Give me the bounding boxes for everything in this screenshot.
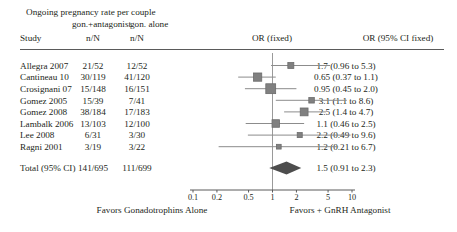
row-treatment-nn: 3/19 [85,142,102,152]
column-header-treatment-nn: n/N [86,33,100,43]
column-header-plot: OR (fixed) [252,33,292,43]
row-study-label: Crosignani 07 [20,84,72,94]
forest-plot: Ongoing pregnancy rate per couplegon.+an… [0,0,457,232]
chart-title: Ongoing pregnancy rate per couple [26,7,156,17]
total-effect-text: 1.5 (0.91 to 2.3) [316,163,375,173]
row-treatment-nn: 38/184 [80,107,106,117]
effect-marker [254,73,262,81]
effect-marker [288,63,294,69]
row-control-nn: 16/151 [124,84,150,94]
x-axis-tick-label: 1 [270,193,274,202]
row-control-nn: 3/22 [129,142,146,152]
row-control-nn: 12/52 [127,61,148,71]
row-effect-text: 2.5 (1.4 to 4.7) [319,107,374,117]
row-study-label: Lee 2008 [20,130,55,140]
row-effect-text: 1.1 (0.46 to 2.5) [316,119,375,129]
effect-marker [300,108,308,116]
row-study-label: Gomez 2005 [20,96,68,106]
effect-marker [297,133,302,138]
column-header-study: Study [20,33,42,43]
x-axis-tick-label: 0.1 [188,193,198,202]
axis-label-left: Favors Gonadotrophins Alone [97,205,208,215]
row-effect-text: 0.65 (0.37 to 1.1) [314,72,378,82]
row-treatment-nn: 21/52 [83,61,104,71]
row-control-nn: 17/183 [124,107,150,117]
row-control-nn: 41/120 [124,72,150,82]
row-treatment-nn: 13/103 [80,119,106,129]
row-treatment-nn: 30/119 [80,72,106,82]
effect-marker [266,84,276,94]
group-header-control: gon. alone [130,19,168,29]
group-header-treatment: gon.+antagonist [72,19,131,29]
x-axis-tick-label: 0.2 [212,193,222,202]
effect-marker [309,98,315,104]
row-study-label: Ragni 2001 [20,142,63,152]
axis-label-right: Favors + GnRH Antagonist [290,205,391,215]
row-control-nn: 3/30 [129,130,146,140]
effect-marker [276,144,281,149]
row-study-label: Lambalk 2006 [20,119,74,129]
row-control-nn: 12/100 [124,119,150,129]
column-header-control-nn: n/N [130,33,144,43]
row-treatment-nn: 15/148 [80,84,106,94]
x-axis-tick-label: 10 [348,193,356,202]
x-axis-tick-label: 0.5 [243,193,253,202]
summary-diamond [269,162,301,175]
x-axis-tick-label: 2 [294,193,298,202]
column-header-effect: OR (95% CI fixed) [363,33,434,43]
total-treatment-nn: 141/695 [78,163,109,173]
row-study-label: Allegra 2007 [20,61,69,71]
x-axis-tick-label: 5 [326,193,330,202]
row-treatment-nn: 6/31 [85,130,102,140]
total-label: Total (95% CI) [20,163,76,173]
row-control-nn: 7/41 [129,96,146,106]
effect-marker [272,120,280,128]
row-treatment-nn: 15/39 [83,96,104,106]
row-study-label: Cantineau 10 [20,72,69,82]
forest-plot-canvas: Ongoing pregnancy rate per couplegon.+an… [0,0,457,232]
row-study-label: Gomez 2008 [20,107,68,117]
row-effect-text: 0.95 (0.45 to 2.0) [314,84,378,94]
total-control-nn: 111/699 [122,163,152,173]
